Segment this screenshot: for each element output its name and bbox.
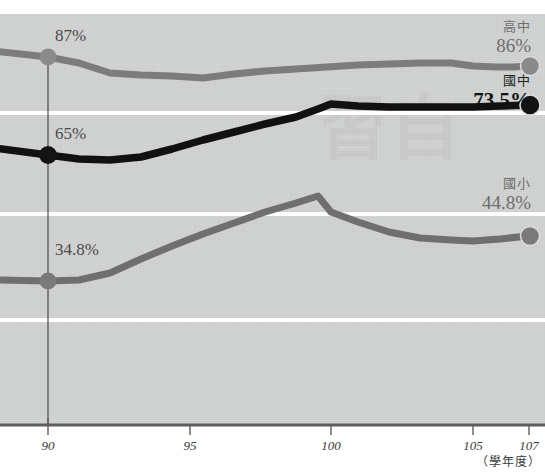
series-name-junior: 國中	[473, 72, 531, 89]
series-name-primary: 國小	[482, 175, 531, 192]
point-label-junior-90: 65%	[55, 124, 86, 144]
x-tick-label-90: 90	[42, 438, 55, 454]
gridlines	[0, 113, 545, 320]
x-tick-label-100: 100	[321, 438, 341, 454]
marker-primary-end	[521, 227, 540, 246]
series-label-junior: 國中 73.5%	[473, 72, 531, 111]
marker-primary-90	[40, 273, 57, 290]
point-label-primary-90: 34.8%	[55, 240, 99, 260]
marker-senior-90	[40, 49, 57, 66]
marker-junior-90	[39, 146, 57, 164]
chart-canvas	[0, 0, 545, 473]
series-line-primary	[0, 196, 528, 281]
series-value-junior: 73.5%	[473, 89, 531, 111]
series-value-primary: 44.8%	[482, 192, 531, 214]
series-label-senior: 高中 86%	[496, 18, 531, 57]
data-point-markers	[39, 49, 540, 290]
series-name-senior: 高中	[496, 18, 531, 35]
x-tick-label-95: 95	[184, 438, 197, 454]
series-line-senior	[0, 51, 528, 78]
x-axis	[0, 418, 545, 435]
series-value-senior: 86%	[496, 35, 531, 57]
line-chart: 習自 90 95 100 105	[0, 0, 545, 473]
series-label-primary: 國小 44.8%	[482, 175, 531, 214]
x-axis-unit-label: （學年度）	[476, 452, 541, 469]
point-label-senior-90: 87%	[55, 26, 86, 46]
